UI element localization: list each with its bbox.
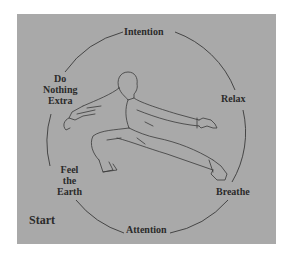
label-relax: Relax <box>220 93 246 104</box>
label-do-nothing-extra-line-3: Extra <box>43 95 77 106</box>
label-feel-the-earth: Feel the Earth <box>56 164 83 197</box>
label-do-nothing-extra: Do Nothing Extra <box>42 73 78 106</box>
label-breathe: Breathe <box>215 186 251 197</box>
cycle-diagram <box>17 14 276 244</box>
label-feel-the-earth-line-1: Feel <box>57 164 82 175</box>
label-do-nothing-extra-line-1: Do <box>43 73 77 84</box>
label-start: Start <box>28 215 56 226</box>
diagram-panel: Intention Relax Breathe Attention Feel t… <box>17 14 276 244</box>
cycle-circle <box>47 32 246 233</box>
label-do-nothing-extra-line-2: Nothing <box>43 84 77 95</box>
label-feel-the-earth-line-3: Earth <box>57 186 82 197</box>
label-feel-the-earth-line-2: the <box>57 175 82 186</box>
label-intention: Intention <box>123 26 164 37</box>
martial-artist-figure <box>64 72 227 180</box>
label-attention: Attention <box>125 224 168 235</box>
